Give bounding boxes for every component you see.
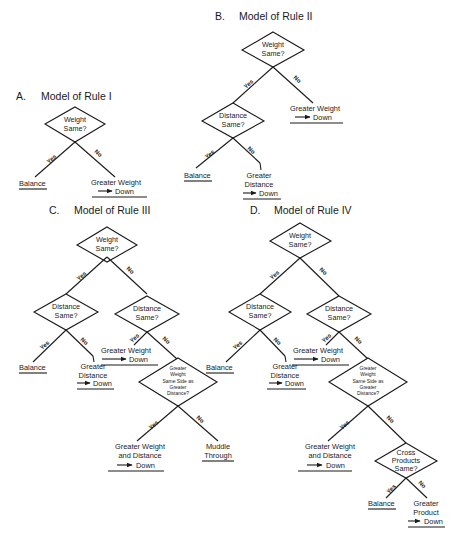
outcome-muddle-through: Muddle [206,442,230,451]
edge-label-yes: Yes [321,332,333,344]
edge-label-yes: Yes [385,483,397,495]
edge-tail [260,163,261,170]
decision-text: Weight [360,371,376,377]
edge-no [66,330,93,356]
outcome-balance: Balance [368,499,395,508]
panel-a: A. Model of Rule I Weight Same? Yes No B… [16,90,147,197]
edge-label-no: No [93,148,103,158]
panel-d-letter: D. [250,204,261,216]
panel-c-title: Model of Rule III [74,204,150,216]
outcome-greater-distance: Greater [80,362,106,371]
decision-text: Weight [64,115,86,124]
edge-label-yes: Yes [129,332,141,344]
outcome-down: Down [129,355,148,364]
edge-label-yes: Yes [232,339,244,351]
outcome-greater-distance: Distance [245,180,274,189]
decision-text: Same? [222,120,245,129]
outcome-greater-weight: Greater Weight [101,346,151,355]
outcome-muddle-through: Through [204,451,232,460]
decision-text: Same? [136,313,159,322]
outcome-down: Down [115,187,134,196]
edge-label-no: No [246,145,256,155]
outcome-down: Down [321,355,340,364]
outcome-balance: Balance [19,179,46,188]
edge-yes [260,258,300,294]
edge-label-no: No [125,265,135,275]
edge-yes [233,67,273,103]
panel-d-title: Model of Rule IV [274,204,352,216]
outcome-down: Down [424,517,443,526]
edge-no [178,406,218,441]
edge-label-no: No [385,414,395,424]
panel-c: C. Model of Rule III Weight Same? Yes No… [19,204,234,471]
decision-text: Weight [96,235,118,244]
outcome-greater-weight-and-distance: and Distance [308,451,351,460]
outcome-greater-product: Greater [413,499,439,508]
edge-label-yes: Yes [148,419,160,431]
edge-no [300,258,339,296]
outcome-greater-weight: Greater Weight [91,178,141,187]
decision-text: Distance [52,302,80,311]
decision-text: Same? [289,240,312,249]
edge-no [147,332,177,359]
decision-text: Same? [395,464,418,473]
decision-text: Distance [133,304,161,313]
outcome-down: Down [285,379,304,388]
decision-text: Distance [325,304,353,313]
edge-no [260,330,285,356]
edge-label-yes: Yes [269,269,281,281]
edge-label-no: No [417,479,427,489]
decision-text: Distance [246,302,274,311]
decision-text: Distance [219,111,247,120]
edge-label-no: No [292,74,302,84]
decision-text: Same? [328,313,351,322]
decision-text: Distance? [167,390,189,396]
outcome-down: Down [136,461,155,470]
panel-c-letter: C. [49,204,60,216]
decision-text: Same? [55,311,78,320]
outcome-greater-weight-and-distance: and Distance [118,451,161,460]
outcome-down: Down [93,379,112,388]
outcome-down: Down [326,461,345,470]
outcome-down: Down [259,189,278,198]
edge-no [107,257,147,294]
decision-text: Distance? [357,390,379,396]
outcome-balance: Balance [206,363,233,372]
edge-no [368,406,406,443]
outcome-balance: Balance [184,171,211,180]
edge-label-yes: Yes [339,419,351,431]
edge-label-yes: Yes [204,148,216,160]
decision-text: Weight [170,371,186,377]
outcome-greater-weight-and-distance: Greater Weight [115,442,165,451]
decision-text: Weight [289,231,311,240]
panel-d: D. Model of Rule IV Weight Same? Yes No … [206,204,445,527]
edge-no [75,142,115,177]
decision-text: Same? [96,244,119,253]
outcome-greater-weight: Greater Weight [290,104,340,113]
decision-text: Same? [262,49,285,58]
outcome-greater-distance: Greater [272,362,298,371]
balance-scale-rule-models-diagram: A. Model of Rule I Weight Same? Yes No B… [0,0,453,536]
panel-b-title: Model of Rule II [239,10,313,22]
outcome-down: Down [313,113,332,122]
edge-label-yes: Yes [39,339,51,351]
panel-a-title: Model of Rule I [41,90,112,102]
outcome-greater-product: Product [413,508,438,517]
edge-no [339,332,368,359]
decision-text: Same? [249,311,272,320]
decision-text: Weight [262,40,284,49]
outcome-balance: Balance [19,363,46,372]
edge-label-no: No [161,335,171,345]
edge-label-no: No [318,266,328,276]
edge-no [273,67,313,103]
edge-label-no: No [353,335,363,345]
decision-text: Same? [64,124,87,133]
diagram-svg: A. Model of Rule I Weight Same? Yes No B… [0,0,453,536]
outcome-greater-distance: Greater [246,171,272,180]
panel-b-letter: B. [215,10,225,22]
panel-b: B. Model of Rule II Weight Same? Yes No … [184,10,343,199]
edge-label-yes: Yes [243,78,255,90]
outcome-greater-weight-and-distance: Greater Weight [305,442,355,451]
outcome-greater-weight: Greater Weight [293,346,343,355]
panel-a-letter: A. [16,90,26,102]
